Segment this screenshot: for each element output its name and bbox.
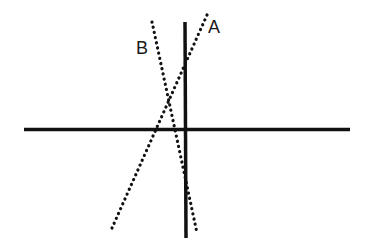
vertical-axis	[185, 22, 186, 238]
line-b-label: B	[136, 38, 148, 58]
line-a-label: A	[208, 17, 220, 37]
diagram-canvas: A B	[0, 0, 367, 244]
dotted-line-a	[112, 15, 207, 228]
